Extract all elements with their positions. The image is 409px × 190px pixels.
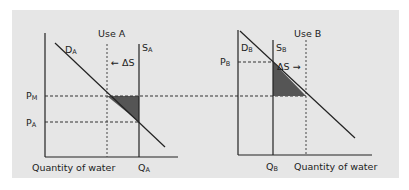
use-a-quantity-label: QA (138, 162, 150, 174)
use-a-x-axis-label: Quantity of water (32, 162, 115, 173)
use-a-demand-line (55, 43, 165, 147)
use-b-x-axis-label: Quantity of water (294, 161, 377, 172)
use-a-supply-label: SA (142, 42, 153, 54)
use-b-chart: Use B DB SB ΔS → PB QB Quantity of water (220, 28, 377, 173)
use-b-quantity-label: QB (266, 161, 278, 173)
use-b-shift-label: ΔS → (277, 61, 301, 72)
use-b-demand-label: DB (241, 42, 253, 54)
use-a-shift-label: ← ΔS (111, 57, 135, 68)
use-b-title: Use B (294, 28, 321, 39)
market-price-label: PM (26, 90, 37, 102)
use-a-demand-label: DA (65, 44, 77, 56)
use-a-chart: Use A DA SA ← ΔS PM PA Quantity of water… (26, 28, 306, 174)
water-allocation-diagram: Use A DA SA ← ΔS PM PA Quantity of water… (0, 0, 409, 190)
use-b-supply-label: SB (276, 42, 287, 54)
use-b-demand-line (240, 31, 355, 138)
use-b-price-label: PB (220, 56, 230, 68)
use-a-price-label: PA (26, 117, 37, 129)
use-a-title: Use A (98, 28, 126, 39)
